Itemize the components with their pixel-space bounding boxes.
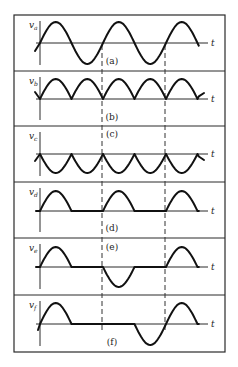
- waveform-vd: [36, 191, 199, 211]
- panel-caption: (e): [106, 242, 118, 252]
- panel-e: ve t (e): [29, 242, 215, 289]
- panel-a: va t (a): [29, 20, 215, 66]
- y-axis-label: va: [29, 20, 38, 31]
- dashed-reference-lines: [102, 45, 165, 330]
- waveform-vc: [35, 154, 204, 173]
- y-axis-label: vd: [29, 187, 38, 198]
- figure-frame: [14, 15, 225, 352]
- panel-f: vf t (f): [29, 300, 215, 347]
- panel-c: vc t (c): [29, 129, 215, 176]
- panel-caption: (a): [106, 56, 118, 66]
- t-axis-label: t: [211, 262, 215, 272]
- panel-d: vd t (d): [29, 187, 215, 233]
- t-axis-label: t: [211, 38, 215, 48]
- panel-caption: (f): [107, 337, 117, 347]
- y-axis-label: vb: [29, 76, 38, 87]
- y-axis-label: ve: [29, 243, 38, 254]
- panel-caption: (b): [106, 112, 119, 122]
- t-axis-label: t: [211, 319, 215, 329]
- panel-b: vb t (b): [29, 76, 215, 122]
- panel-caption: (d): [106, 223, 119, 233]
- panel-caption: (c): [106, 129, 118, 139]
- t-axis-label: t: [211, 206, 215, 216]
- t-axis-label: t: [211, 149, 215, 159]
- y-axis-label: vc: [29, 131, 38, 142]
- waveform-vb: [35, 79, 204, 99]
- waveform-diagram: va t (a) vb t (b) vc t (c) vd t (d) ve t…: [0, 0, 238, 367]
- y-axis-label: vf: [29, 300, 38, 312]
- panel-dividers: [14, 71, 225, 295]
- t-axis-label: t: [211, 94, 215, 104]
